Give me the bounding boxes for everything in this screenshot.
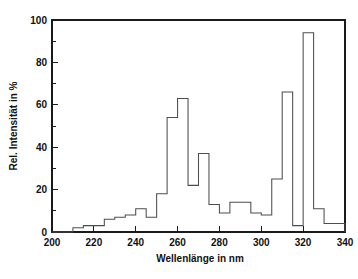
y-tick-label: 0 [41,227,47,238]
plot-frame [52,20,345,232]
x-tick-label: 320 [295,237,312,248]
x-tick-label: 340 [337,237,354,248]
y-tick-label: 80 [36,57,48,68]
y-axis-ticks [52,20,58,232]
y-tick-labels: 0 20 40 60 80 100 [30,15,47,238]
x-tick-labels: 200 220 240 260 280 300 320 340 [44,237,354,248]
x-tick-label: 220 [86,237,103,248]
x-axis-title: Wellenlänge in nm [156,253,244,264]
axes-box [52,20,345,232]
x-tick-label: 200 [44,237,61,248]
x-axis-ticks [52,226,345,232]
spectrum-chart-svg: 0 20 40 60 80 100 200 220 240 260 280 30… [0,0,358,279]
spectrum-step-curve [52,33,345,232]
x-tick-label: 240 [127,237,144,248]
y-axis-title: Rel. Intensität in % [8,81,19,170]
y-tick-label: 60 [36,99,48,110]
x-tick-label: 280 [211,237,228,248]
y-tick-label: 20 [36,184,48,195]
x-tick-label: 300 [253,237,270,248]
y-tick-label: 100 [30,15,47,26]
x-tick-label: 260 [169,237,186,248]
y-tick-label: 40 [36,142,48,153]
spectrum-figure: 0 20 40 60 80 100 200 220 240 260 280 30… [0,0,358,279]
